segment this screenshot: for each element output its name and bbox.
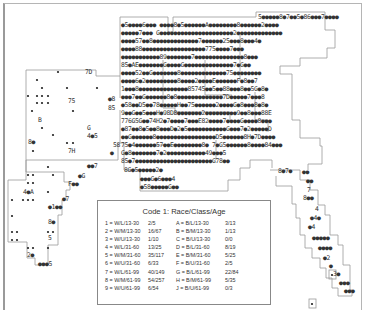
legend-row: 2 = W/M/13-3016/67B = B/M/13-301/13 — [105, 228, 245, 236]
legend-row: 1 = W/L/13-302/5A = B/L/13-303/13 — [105, 220, 245, 228]
map-code-label: ● — [110, 149, 114, 157]
map-code-label: ●●●7●●G●●●●●●8●8●●●●●●●●●●●●●7D●●●●●7●●●… — [121, 93, 265, 101]
legend-black-ratio: 5/25 — [225, 252, 245, 260]
legend-white-ratio: 54/257 — [148, 277, 176, 285]
legend-box: Code 1: Race/Class/Age 1 = W/L/13-302/5A… — [97, 200, 271, 305]
map-code-label: ●●●●● — [312, 234, 330, 242]
dense-data-rows: 5●●●●●8●7●●5●86●●●7●●●●●5●●●●6●●● ●●●●8●… — [121, 13, 339, 191]
map-code-label: 85 — [108, 104, 115, 112]
map-code-label: ●58●●●●●G●● — [140, 183, 179, 191]
legend-white-code: 3 = W/U/13-30 — [105, 236, 148, 244]
map-code-label: ●● — [306, 177, 313, 185]
map-code-label: ●● — [302, 168, 309, 176]
legend-black-code: C = B/U/13-30 — [176, 236, 225, 244]
map-code-label: 7H — [68, 147, 75, 155]
map-code-label: ●●●G●6●●●4 — [140, 175, 175, 183]
legend-white-code: 9 = W/U/61-99 — [105, 285, 148, 293]
map-code-label: ●●7 — [87, 162, 98, 170]
legend-black-code: A = B/L/13-30 — [176, 220, 225, 228]
legend-table: 1 = W/L/13-302/5A = B/L/13-303/132 = W/M… — [105, 220, 245, 293]
map-code-label: ●4● — [310, 214, 321, 222]
map-code-label: 8● — [48, 218, 55, 226]
map-code-label: ●4 — [308, 223, 315, 231]
map-code-label: 8G●5●●●●●2● — [124, 166, 163, 174]
legend-row: 4 = W/L/31-6013/25D = B/L/31-608/19 — [105, 244, 245, 252]
legend-black-code: G = B/L/61-99 — [176, 269, 225, 277]
legend-black-code: H = B/M/61-99 — [176, 277, 225, 285]
map-code-label: 85●AE●●●●●●●G●●●●G●●●●●●●●●●●●●●7●G●● — [121, 61, 251, 69]
legend-black-code: B = B/M/13-30 — [176, 228, 225, 236]
legend-white-code: 4 = W/L/31-60 — [105, 244, 148, 252]
legend-white-code: 1 = W/L/13-30 — [105, 220, 148, 228]
legend-black-ratio: 0/3 — [225, 285, 245, 293]
legend-white-ratio: 2/5 — [148, 220, 176, 228]
map-code-label: 776G5G●●74H2●7●●●●7●●●E82●●●●7●●●●G●●●●8… — [121, 117, 272, 125]
legend-row: 8 = W/M/61-9954/257H = B/M/61-995/35 — [105, 277, 245, 285]
map-code-label: ●●●●●●●●●●●89●●●●●●●7●●●●●●●●●●●●●●8●●● — [121, 53, 258, 61]
map-code-label: F●● — [68, 180, 79, 188]
legend-black-ratio: 1/13 — [225, 228, 245, 236]
map-code-label: ●5●●●●6●●● ●●●●8●5●●●●●●A●●●●●●●●8●●●●●●… — [121, 21, 279, 29]
legend-row: 3 = W/U/13-301/10C = B/U/13-300/0 — [105, 236, 245, 244]
legend-row: 9 = W/U/61-996/54J = B/U/61-990/3 — [105, 285, 245, 293]
map-code-label: 75●4●●●●●●57●●E●●●●●●●●8● 7●G5●●●●●●8●●●… — [121, 141, 282, 149]
map-code-label: 3● — [333, 270, 340, 278]
legend-white-ratio: 6/54 — [148, 285, 176, 293]
map-code-label: ●8 — [108, 95, 115, 103]
map-code-label: ●●●●6●2●●●●●●●●●8●●●●2●●●●E●●●●●●F●8●●7 — [121, 77, 258, 85]
map-code-label: ●87●●8●5●●8●●●D●2●5●●●●●●●●●●●G●●●7●2●●●… — [121, 125, 272, 133]
legend-white-ratio: 6/33 — [148, 260, 176, 268]
map-code-label: 2● — [27, 251, 34, 259]
legend-white-code: 5 = W/M/31-60 — [105, 252, 148, 260]
map-code-label: ●●●●88●●●●●●●●●●●●●●●●●●775●●●●7●●● — [121, 45, 244, 53]
legend-black-ratio: 22/84 — [225, 269, 245, 277]
map-code-label: ●G — [78, 172, 85, 180]
legend-row: 6 = W/U/31-606/33F = B/U/31-602/5 — [105, 260, 245, 268]
map-code-label: 58 — [113, 141, 120, 149]
map-code-label: 5 — [48, 234, 52, 242]
map-code-label: ●●●5 — [38, 260, 52, 268]
legend-title: Code 1: Race/Class/Age — [98, 207, 270, 216]
map-code-label: 4●A — [23, 188, 34, 196]
legend-black-ratio: 2/5 — [225, 260, 245, 268]
legend-black-code: F = B/U/31-60 — [176, 260, 225, 268]
map-code-label: G●8●●●●●●●7●2●●●●●●●●●●●49●●●5 — [121, 149, 226, 157]
legend-white-code: 7 = W/L/61-99 — [105, 269, 148, 277]
map-code-label: G — [87, 124, 91, 132]
map-code-label: 4●5 — [87, 132, 98, 140]
legend-row: 7 = W/L/61-9940/149G = B/L/61-9922/84 — [105, 269, 245, 277]
legend-white-code: 2 = W/M/13-30 — [105, 228, 148, 236]
legend-black-ratio: 5/35 — [225, 277, 245, 285]
map-code-label: ●●● — [344, 287, 355, 295]
map-code-label: 7D — [85, 68, 92, 76]
legend-black-code: J = B/U/61-99 — [176, 285, 225, 293]
legend-row: 5 = W/M/31-6035/117E = B/M/31-605/25 — [105, 252, 245, 260]
map-code-label: 8●● — [303, 194, 314, 202]
map-code-label: 7 — [307, 186, 311, 194]
legend-black-ratio: 8/19 — [225, 244, 245, 252]
map-code-label: ●●● — [339, 279, 350, 287]
map-code-label: ●1●● — [48, 203, 62, 211]
map-code-label: 85●7●●●●●●●●●●●●●●●●●●●●●●G78●● — [121, 157, 230, 165]
map-code-label: 8● — [28, 138, 35, 146]
map-code-label: 75 — [68, 97, 75, 105]
map-code-label: ●●●●●7●●● G●●●●●●●●●●●●●●●●●●●●●2●●●●●●●… — [121, 29, 282, 37]
map-code-label: ●58●●D5●●78●●●●●H●●75●●●●●●2●●●●G●8●●●8●… — [121, 101, 268, 109]
map-code-label: ●●●●57●●8●●●●●●●●●●●●●7●●●●●●25●●●8●●●4● — [121, 37, 261, 45]
map-code-label: 8●7● — [278, 167, 292, 175]
legend-white-ratio: 13/25 — [148, 244, 176, 252]
legend-white-ratio: 40/149 — [148, 269, 176, 277]
map-code-label: ● — [329, 262, 333, 270]
legend-white-ratio: 16/67 — [148, 228, 176, 236]
legend-white-code: 8 = W/M/61-99 — [105, 277, 148, 285]
map-code-label: ●●●● — [318, 244, 332, 252]
map-code-label: 5●●●●●8●7●●5●86●●●7●●●● — [258, 13, 339, 21]
legend-black-code: E = B/M/31-60 — [176, 252, 225, 260]
legend-white-ratio: 1/10 — [148, 236, 176, 244]
legend-black-ratio: 3/13 — [225, 220, 245, 228]
map-code-label: ●2 — [323, 254, 330, 262]
map-code-label: B — [38, 116, 42, 124]
legend-white-ratio: 35/117 — [148, 252, 176, 260]
map-code-label: ●●G●●●●●●8●●●●●●●●●●●●●●●●●D5●●●●●●8H●7D… — [121, 133, 275, 141]
map-code-label: 1●●●8●●●●●●●●●●●●●●85745●●5●●88●●●8●●5G●… — [121, 85, 268, 93]
